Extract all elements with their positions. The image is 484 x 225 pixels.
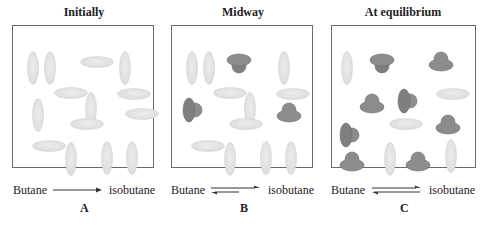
forward-arrow-icon [53,184,103,196]
molecule-box-a [12,25,154,168]
butane-molecule-icon [54,87,88,99]
reactant-label: Butane [331,183,365,198]
isobutane-molecule-icon [396,88,418,114]
isobutane-molecule-icon [369,53,395,75]
isobutane-molecule-icon [359,92,385,114]
isobutane-molecule-icon [405,150,431,172]
butane-molecule-icon [384,142,396,176]
butane-molecule-icon [260,141,272,175]
isobutane-molecule-icon [276,101,302,123]
butane-molecule-icon [27,51,39,85]
butane-molecule-icon [186,51,198,85]
panel-title-initially: Initially [12,5,156,20]
butane-molecule-icon [285,141,297,175]
isobutane-molecule-icon [339,150,365,172]
butane-molecule-icon [32,98,44,132]
isobutane-molecule-icon [435,113,461,135]
isobutane-molecule-icon [338,122,360,148]
butane-molecule-icon [70,118,104,130]
panel-letter-c: C [400,201,409,216]
isobutane-molecule-icon [181,97,203,123]
butane-molecule-icon [213,87,247,99]
reactant-label: Butane [13,183,47,198]
butane-molecule-icon [80,56,114,68]
butane-molecule-icon [229,118,263,130]
equilibrium-arrows-forward-favored-icon [211,184,261,196]
butane-molecule-icon [224,142,236,176]
panel-letter-b: B [240,201,248,216]
panel-title-midway: Midway [171,5,315,20]
butane-molecule-icon [191,140,225,152]
isobutane-molecule-icon [428,50,454,72]
butane-molecule-icon [32,140,66,152]
product-label: isobutane [109,183,155,198]
butane-molecule-icon [101,141,113,175]
butane-molecule-icon [44,51,56,85]
butane-molecule-icon [276,88,310,100]
equilibrium-arrows-icon [372,184,422,196]
molecule-box-c [331,25,476,168]
butane-molecule-icon [278,51,290,85]
butane-molecule-icon [126,141,138,175]
butane-molecule-icon [119,51,131,85]
butane-molecule-icon [445,139,457,173]
butane-molecule-icon [341,51,353,85]
product-label: isobutane [268,183,314,198]
reactant-label: Butane [171,183,205,198]
butane-molecule-icon [203,51,215,85]
molecule-box-b [171,25,313,168]
panel-letter-a: A [80,201,89,216]
panel-title-at-equilibrium: At equilibrium [331,5,475,20]
butane-molecule-icon [436,88,470,100]
butane-molecule-icon [125,108,159,120]
isobutane-molecule-icon [226,53,252,75]
butane-molecule-icon [389,118,423,130]
butane-molecule-icon [65,142,77,176]
butane-molecule-icon [117,88,151,100]
product-label: isobutane [429,183,475,198]
